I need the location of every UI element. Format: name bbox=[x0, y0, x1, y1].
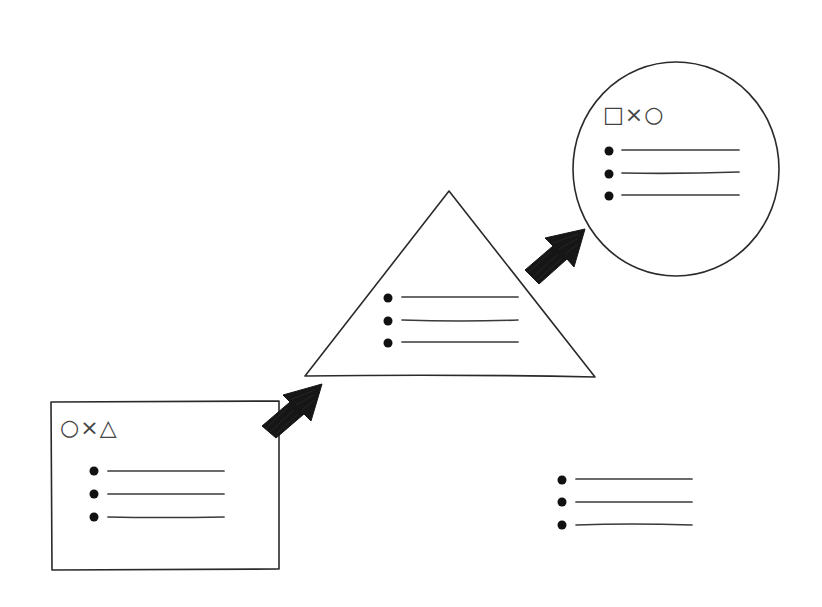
arrow-rectangle-to-triangle bbox=[262, 384, 322, 438]
bullet-dot bbox=[605, 192, 614, 201]
circle-shape bbox=[573, 62, 779, 276]
bullet-dot bbox=[605, 147, 614, 156]
bullet-dot bbox=[558, 498, 567, 507]
triangle-node bbox=[305, 191, 595, 377]
bullet-dot bbox=[558, 476, 567, 485]
bullet-dot bbox=[384, 294, 393, 303]
bullet-dot bbox=[558, 521, 567, 530]
circle-node-label: □×○ bbox=[603, 104, 664, 126]
bullet-dot bbox=[384, 317, 393, 326]
arrow-triangle-to-circle bbox=[525, 229, 585, 284]
bullet-dot bbox=[90, 513, 99, 522]
triangle-bullet-list bbox=[384, 294, 519, 348]
bullet-line bbox=[576, 524, 692, 525]
arrow-icon bbox=[262, 384, 322, 438]
diagram-canvas bbox=[0, 0, 822, 607]
triangle-shape bbox=[305, 191, 595, 377]
circle-bullet-list bbox=[605, 147, 740, 201]
bullet-line bbox=[402, 320, 518, 321]
bullet-dot bbox=[605, 170, 614, 179]
bullet-dot bbox=[384, 339, 393, 348]
bullet-line bbox=[108, 517, 224, 518]
free-bullet-list bbox=[558, 476, 693, 530]
circle-node bbox=[573, 62, 779, 276]
bullet-dot bbox=[90, 467, 99, 476]
bullet-dot bbox=[90, 490, 99, 499]
rectangle-node-label: ○×△ bbox=[60, 417, 118, 439]
rectangle-bullet-list bbox=[90, 467, 225, 522]
bullet-line bbox=[622, 172, 739, 173]
